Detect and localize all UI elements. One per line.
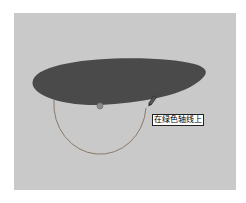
axis-tooltip: 在绿色轴线上 [152,114,204,126]
scene-graphics [0,0,246,203]
dark-ellipse-shape[interactable] [32,58,205,105]
center-point-icon[interactable] [97,103,103,109]
